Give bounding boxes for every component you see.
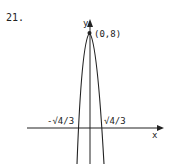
x-axis-label: x <box>152 130 158 140</box>
vertex-label: (0,8) <box>94 29 121 39</box>
neg-intercept-label: -√4/3 <box>47 116 74 126</box>
pos-intercept-label: √4/3 <box>104 116 126 126</box>
vertex-point <box>88 31 92 35</box>
y-axis-label: y <box>83 18 89 28</box>
graph: y x (0,8) -√4/3 √4/3 <box>0 0 174 164</box>
x-axis-arrow-icon <box>157 125 164 131</box>
